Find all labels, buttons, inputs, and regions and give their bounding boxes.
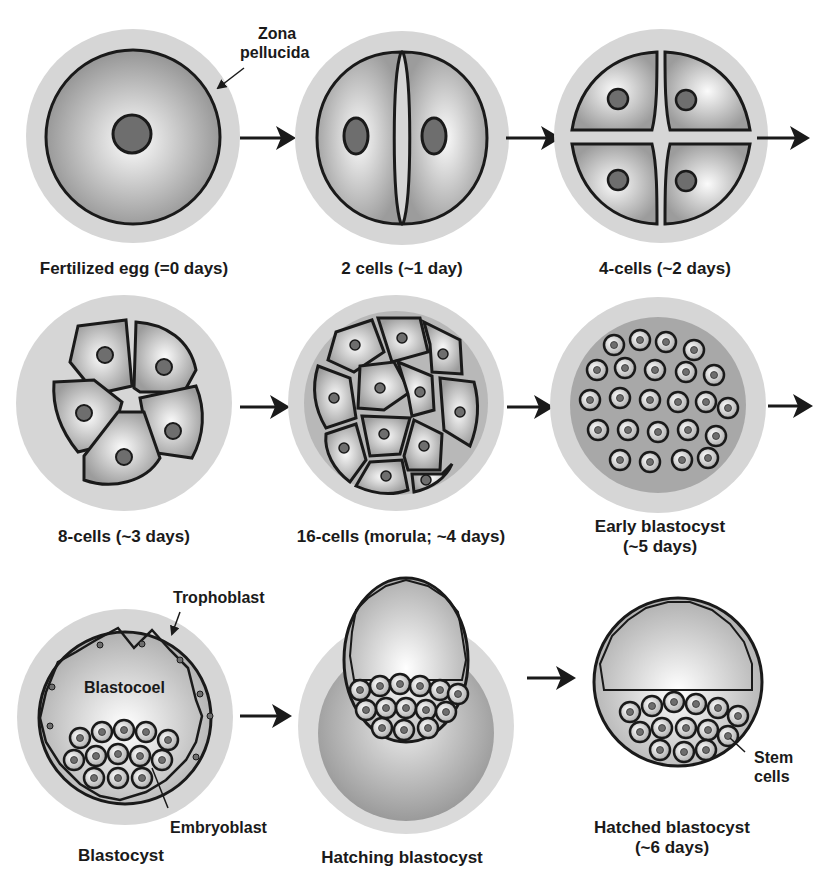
stage-4-cells bbox=[554, 29, 768, 243]
embryo-diagram bbox=[0, 0, 827, 888]
stage-fertilized-egg bbox=[26, 29, 240, 243]
label-8-cells: 8-cells (~3 days) bbox=[34, 527, 214, 547]
label-16-cells: 16-cells (morula; ~4 days) bbox=[286, 527, 516, 547]
label-early-blastocyst: Early blastocyst (~5 days) bbox=[570, 517, 750, 557]
stage-8-cells bbox=[16, 295, 232, 511]
label-blastocyst: Blastocyst bbox=[78, 846, 164, 866]
annotation-zona-pellucida: Zona pellucida bbox=[240, 24, 309, 62]
annotation-stem-cells: Stem cells bbox=[754, 748, 793, 786]
label-hatched-blastocyst: Hatched blastocyst (~6 days) bbox=[572, 818, 772, 858]
stage-early-blastocyst bbox=[550, 297, 766, 513]
stage-hatching-blastocyst bbox=[298, 578, 514, 834]
label-fertilized-egg: Fertilized egg (=0 days) bbox=[24, 259, 244, 279]
label-hatching-blastocyst: Hatching blastocyst bbox=[302, 848, 502, 868]
stage-hatched-blastocyst bbox=[594, 598, 762, 766]
annotation-embryoblast: Embryoblast bbox=[170, 818, 267, 837]
annotation-blastocoel: Blastocoel bbox=[84, 678, 165, 697]
stage-2-cells bbox=[295, 31, 509, 245]
stage-16-cells bbox=[288, 295, 504, 511]
stage-blastocyst bbox=[17, 609, 233, 825]
label-4-cells: 4-cells (~2 days) bbox=[575, 259, 755, 279]
annotation-trophoblast: Trophoblast bbox=[173, 588, 265, 607]
label-2-cells: 2 cells (~1 day) bbox=[312, 259, 492, 279]
